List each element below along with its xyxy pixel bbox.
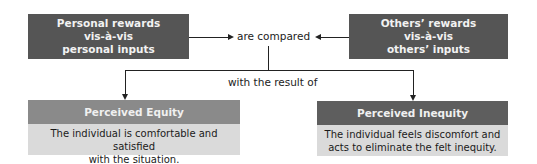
others-rewards-line-3: others’ inputs <box>387 43 470 56</box>
inequity-description-line-2: acts to eliminate the felt inequity. <box>321 141 504 154</box>
right-connector-line <box>320 37 349 38</box>
others-rewards-box: Others’ rewards vis-à-vis others’ inputs <box>349 14 508 59</box>
inequity-description-line-1: The individual feels discomfort and <box>321 128 504 141</box>
perceived-inequity-title: Perceived Inequity <box>317 101 508 125</box>
right-drop-line <box>413 70 414 95</box>
arrow-right-icon <box>228 34 234 40</box>
perceived-inequity-box: Perceived Inequity The individual feels … <box>317 101 508 156</box>
equity-description-line-2: with the situation. <box>32 153 236 164</box>
personal-rewards-line-1: Personal rewards <box>57 17 160 30</box>
comparison-label: are compared <box>237 30 310 42</box>
perceived-equity-box: Perceived Equity The individual is comfo… <box>28 100 240 155</box>
perceived-equity-title: Perceived Equity <box>28 100 240 124</box>
equity-description-line-1: The individual is comfortable and satisf… <box>32 127 236 153</box>
split-line <box>125 70 414 71</box>
left-drop-line <box>125 70 126 94</box>
others-rewards-line-2: vis-à-vis <box>404 30 453 43</box>
personal-rewards-line-3: personal inputs <box>62 43 154 56</box>
perceived-inequity-description: The individual feels discomfort and acts… <box>317 125 508 156</box>
left-connector-line <box>189 37 229 38</box>
personal-rewards-box: Personal rewards vis-à-vis personal inpu… <box>28 14 189 59</box>
personal-rewards-line-2: vis-à-vis <box>84 30 133 43</box>
perceived-equity-description: The individual is comfortable and satisf… <box>28 124 240 155</box>
center-vertical-line <box>268 46 269 70</box>
others-rewards-line-1: Others’ rewards <box>381 17 477 30</box>
result-label: with the result of <box>228 76 317 88</box>
